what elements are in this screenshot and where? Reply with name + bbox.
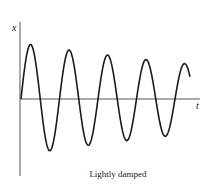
x-axis-label: t: [196, 101, 199, 111]
y-axis-label: x: [12, 23, 16, 33]
damped-oscillation-plot: [0, 0, 208, 187]
oscillation-curve: [21, 45, 190, 151]
figure-caption: Lightly damped: [14, 169, 208, 179]
